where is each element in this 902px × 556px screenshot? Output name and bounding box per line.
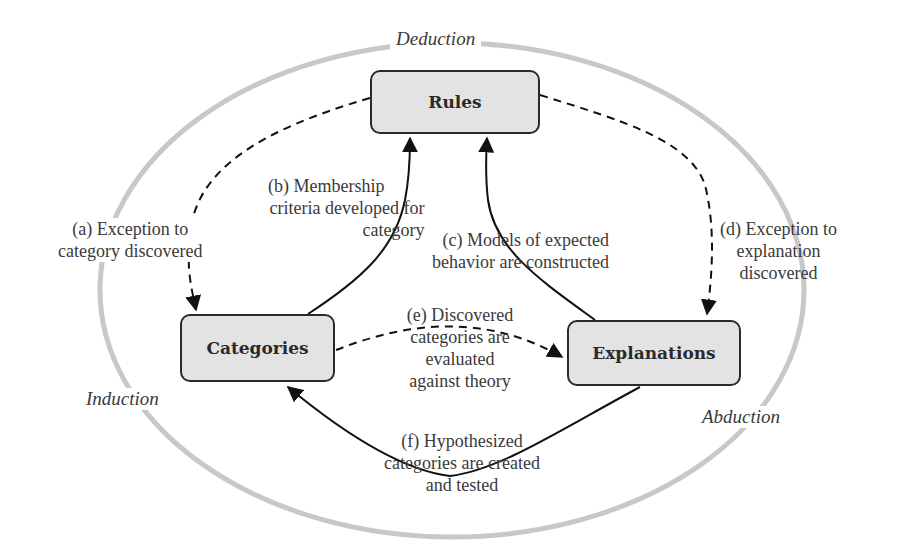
edge-label-f: (f) Hypothesized categories are created …	[362, 430, 562, 496]
reasoning-cycle-diagram: Deduction Induction Abduction Rules Cate…	[0, 0, 902, 556]
edge-label-d: (d) Exception to explanation discovered	[720, 218, 837, 284]
mode-label-induction: Induction	[80, 388, 165, 410]
mode-label-deduction: Deduction	[390, 28, 481, 50]
mode-label-abduction: Abduction	[696, 406, 786, 428]
edge-label-a: (a) Exception to category discovered	[58, 218, 202, 262]
edge-label-e: (e) Discovered categories are evaluated …	[385, 304, 535, 392]
edge-label-b: (b) Membership criteria developed for ca…	[268, 175, 424, 241]
node-categories: Categories	[180, 314, 335, 382]
edge-label-c: (c) Models of expected behavior are cons…	[432, 229, 609, 273]
node-explanations: Explanations	[567, 320, 741, 386]
edge-d-arrow	[540, 95, 712, 314]
node-rules: Rules	[370, 70, 540, 134]
